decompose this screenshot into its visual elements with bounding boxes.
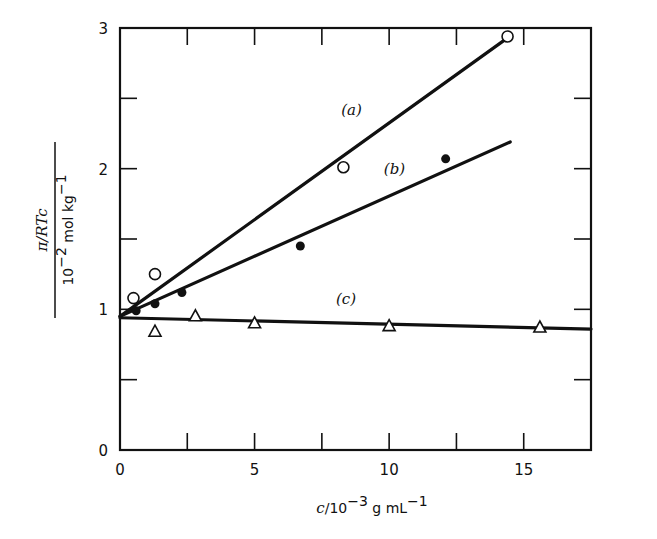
- x-tick-label: 5: [250, 461, 260, 479]
- y-axis-title: π/RTc 10−2 mol kg−1: [33, 142, 76, 318]
- x-axis-title-base: /10: [325, 500, 348, 516]
- x-axis-ticks: 051015: [115, 28, 533, 479]
- y-tick-label: 2: [98, 161, 108, 179]
- filled-circle-marker: [441, 154, 450, 163]
- open-circle-marker: [502, 31, 513, 42]
- open-circle-marker: [128, 293, 139, 304]
- filled-circle-marker: [296, 242, 305, 251]
- x-axis-title-unit: g mL: [368, 500, 407, 516]
- osmotic-pressure-chart: 051015 0123 (a)(b)(c) c/10−3 g mL−1 π/RT…: [0, 0, 657, 539]
- series-label: (b): [384, 160, 405, 178]
- x-axis-title: c/10−3 g mL−1: [316, 493, 427, 517]
- x-tick-label: 15: [514, 461, 533, 479]
- plot-frame: [120, 28, 591, 450]
- y-axis-title-denominator-unit-exponent: −1: [53, 174, 69, 195]
- y-axis-title-numerator: π/RTc: [33, 208, 51, 253]
- y-tick-label: 1: [98, 301, 108, 319]
- fit-lines: [120, 38, 591, 329]
- fit-line-a: [120, 38, 508, 317]
- x-axis-title-unit-exponent: −1: [407, 493, 428, 509]
- open-triangle-marker: [189, 310, 201, 321]
- y-axis-title-denominator-base: 10: [60, 268, 76, 286]
- open-circle-marker: [149, 269, 160, 280]
- open-circle-marker: [338, 162, 349, 173]
- y-tick-label: 0: [98, 442, 108, 460]
- filled-circle-marker: [177, 288, 186, 297]
- y-axis-title-denominator-unit: mol kg: [60, 195, 76, 247]
- y-axis-title-denominator-exponent: −2: [53, 247, 69, 268]
- y-tick-label: 3: [98, 20, 108, 38]
- series-label: (a): [341, 101, 362, 119]
- series-label: (c): [336, 290, 356, 308]
- x-axis-title-exponent: −3: [347, 493, 368, 509]
- x-tick-label: 0: [115, 461, 125, 479]
- x-tick-label: 10: [380, 461, 399, 479]
- y-axis-title-denominator: 10−2 mol kg−1: [53, 174, 76, 285]
- plot-border: [120, 28, 591, 450]
- y-axis-ticks: 0123: [98, 20, 591, 460]
- filled-circle-marker: [150, 299, 159, 308]
- filled-circle-marker: [132, 306, 141, 315]
- open-triangle-marker: [149, 325, 161, 336]
